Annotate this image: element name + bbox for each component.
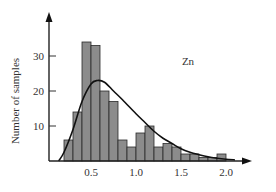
histogram-bar — [181, 154, 190, 161]
histogram-chart: 102030 0.51.01.52.0 Number of samples Zn — [0, 0, 276, 192]
x-tick-label: 1.0 — [129, 166, 143, 178]
y-axis-arrow-icon — [46, 12, 53, 22]
histogram-bars — [64, 42, 226, 161]
x-axis-arrow-icon — [242, 158, 252, 165]
histogram-bar — [118, 140, 127, 161]
x-axis-ticks: 0.51.01.52.0 — [84, 166, 233, 178]
x-tick-label: 2.0 — [219, 166, 233, 178]
x-tick-label: 1.5 — [174, 166, 188, 178]
y-axis-ticks: 102030 — [33, 50, 56, 132]
x-tick-label: 0.5 — [84, 166, 98, 178]
y-tick-label: 20 — [33, 85, 45, 97]
y-tick-label: 10 — [33, 120, 45, 132]
histogram-bar — [91, 46, 100, 162]
histogram-bar — [127, 147, 136, 161]
histogram-bar — [172, 147, 181, 161]
histogram-bar — [163, 144, 172, 162]
histogram-bar — [136, 133, 145, 161]
histogram-bar — [217, 154, 226, 161]
histogram-bar — [145, 126, 154, 161]
histogram-bar — [82, 42, 91, 161]
y-tick-label: 30 — [33, 50, 45, 62]
histogram-bar — [154, 147, 163, 161]
element-annotation: Zn — [182, 55, 195, 67]
histogram-bar — [73, 112, 82, 161]
histogram-bar — [109, 102, 118, 162]
histogram-bar — [100, 91, 109, 161]
y-axis-label: Number of samples — [9, 58, 21, 144]
